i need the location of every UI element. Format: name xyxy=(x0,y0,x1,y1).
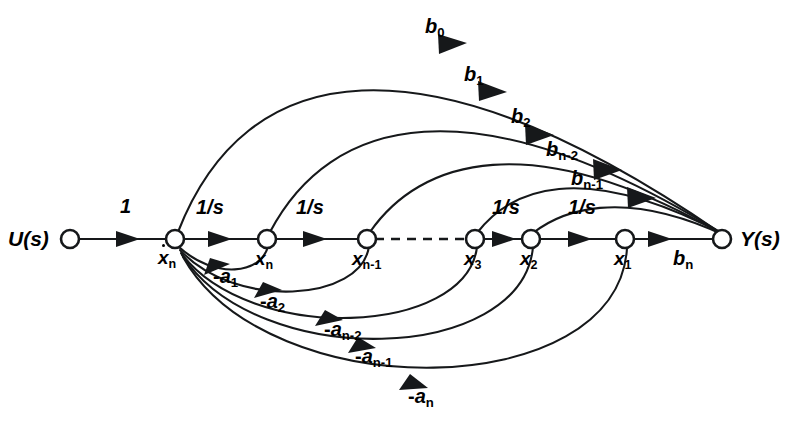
node-x1[interactable] xyxy=(616,230,634,248)
label-integrator-2: 1/s xyxy=(296,197,324,217)
subscript-n: n xyxy=(685,257,693,272)
arrowhead-integrator-4 xyxy=(568,231,592,247)
node-xn-1[interactable] xyxy=(358,230,376,248)
subscript-0: 0 xyxy=(437,25,444,40)
node-x3[interactable] xyxy=(466,230,484,248)
arc-b0 xyxy=(178,90,722,234)
label-input-u: U(s) xyxy=(8,228,49,249)
minus-sign: - xyxy=(408,385,415,407)
label-node-x3: x3 xyxy=(464,249,482,271)
label-arc-b0: b0 xyxy=(425,16,445,39)
label-node-xn: xn xyxy=(255,249,273,271)
label-arc-bn-1: bn-1 xyxy=(571,168,603,191)
label-node-xn-1: xn-1 xyxy=(352,249,381,271)
x-symbol-with-dot: x xyxy=(158,248,169,267)
subscript-n-minus-2: n-2 xyxy=(342,328,362,343)
node-x2[interactable] xyxy=(522,230,540,248)
subscript-2: 2 xyxy=(278,300,285,315)
subscript-n-minus-1: n-1 xyxy=(583,177,603,192)
label-arc-neg-a2: -a2 xyxy=(260,291,285,314)
derivative-dot-icon xyxy=(162,244,165,247)
node-xn[interactable] xyxy=(258,230,276,248)
subscript-n: n xyxy=(426,395,434,410)
label-integrator-4: 1/s xyxy=(568,197,596,217)
feedback-branch-group xyxy=(179,246,627,390)
subscript-3: 3 xyxy=(475,258,482,272)
arc-b1 xyxy=(270,131,723,234)
minus-sign: - xyxy=(355,345,362,367)
label-input-gain-one: 1 xyxy=(120,196,131,216)
subscript-n-minus-2: n-2 xyxy=(558,148,578,163)
signal-flow-graph-figure: U(s) Y(s) 1 1/s 1/s 1/s 1/s xn xn xn-1 x… xyxy=(0,0,798,423)
numerator-branch-group xyxy=(178,34,726,236)
arrowhead-integrator-3 xyxy=(492,231,516,247)
label-node-x2: x2 xyxy=(520,249,538,271)
subscript-n: n xyxy=(169,257,177,271)
arrowhead-integrator-2 xyxy=(303,231,327,247)
label-gain-bn: bn xyxy=(673,248,693,271)
label-arc-neg-a1: -a1 xyxy=(213,266,238,289)
arrowhead-bn-1 xyxy=(627,187,656,208)
label-output-y: Y(s) xyxy=(740,228,780,249)
label-arc-b1: b1 xyxy=(464,64,484,87)
label-node-x1: x1 xyxy=(614,249,632,271)
subscript-n-minus-1: n-1 xyxy=(363,258,382,272)
arrowhead-input-gain xyxy=(116,231,140,247)
label-arc-neg-an: -an xyxy=(408,386,434,409)
node-xn-dot[interactable] xyxy=(166,230,184,248)
node-output-y[interactable] xyxy=(713,230,731,248)
label-integrator-1: 1/s xyxy=(196,197,224,217)
label-node-xn-dot: xn xyxy=(158,248,176,270)
subscript-1: 1 xyxy=(625,258,632,272)
arrowhead-output-gain-bn xyxy=(648,231,672,247)
subscript-2: 2 xyxy=(523,115,530,130)
arrowhead-integrator-1 xyxy=(208,231,232,247)
minus-sign: - xyxy=(324,318,331,340)
subscript-1: 1 xyxy=(231,275,238,290)
label-arc-neg-an-1: -an-1 xyxy=(355,346,393,369)
subscript-n-minus-1: n-1 xyxy=(373,355,393,370)
subscript-n: n xyxy=(266,258,274,272)
node-input-u[interactable] xyxy=(61,230,79,248)
subscript-1: 1 xyxy=(476,73,483,88)
subscript-2: 2 xyxy=(531,258,538,272)
label-arc-neg-an-2: -an-2 xyxy=(324,319,362,342)
minus-sign: - xyxy=(260,290,267,312)
minus-sign: - xyxy=(213,265,220,287)
label-arc-bn-2: bn-2 xyxy=(546,139,578,162)
label-arc-b2: b2 xyxy=(511,106,531,129)
label-integrator-3: 1/s xyxy=(492,197,520,217)
